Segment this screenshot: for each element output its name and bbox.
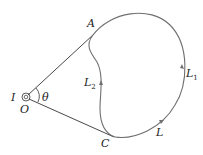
arrow-L1 bbox=[180, 64, 184, 69]
arrow-L2 bbox=[99, 80, 103, 85]
origin-marker-outer bbox=[22, 93, 30, 101]
label-L2: L2 bbox=[83, 76, 96, 91]
origin-marker-inner bbox=[24, 95, 28, 99]
diagram-svg: I O θ A C L2 L1 L bbox=[0, 0, 203, 155]
label-L2-base: L bbox=[83, 76, 91, 89]
label-I: I bbox=[10, 91, 16, 104]
angle-arc-theta bbox=[36, 88, 39, 102]
curve-L1-outer bbox=[93, 13, 185, 137]
label-L1-sub: 1 bbox=[193, 74, 197, 82]
label-A: A bbox=[86, 17, 95, 30]
label-L1: L1 bbox=[185, 67, 198, 82]
label-O: O bbox=[20, 103, 29, 116]
label-L: L bbox=[155, 126, 163, 139]
label-theta: θ bbox=[42, 91, 49, 104]
label-L1-base: L bbox=[185, 67, 193, 80]
label-L2-sub: 2 bbox=[91, 83, 95, 91]
label-C: C bbox=[101, 137, 110, 150]
diagram-canvas: I O θ A C L2 L1 L bbox=[0, 0, 203, 155]
